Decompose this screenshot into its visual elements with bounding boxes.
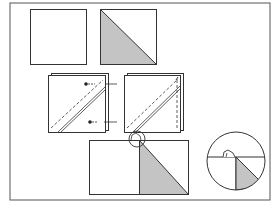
- diagram-canvas: [0, 0, 277, 209]
- plain-square: [31, 10, 87, 65]
- layered-square-sewn: [125, 74, 184, 133]
- pressed-unit: [90, 131, 189, 195]
- shaded-square: [101, 10, 157, 65]
- layered-square-pinned: [49, 74, 118, 133]
- detail-magnifier: [207, 132, 265, 190]
